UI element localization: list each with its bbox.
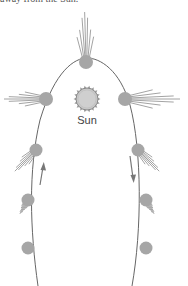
comet-nucleus-6 [22,194,35,207]
comet-nucleus-1 [79,55,93,69]
comet-nucleus-7 [140,194,153,207]
arrow-up-icon [40,162,46,185]
comet-tail [77,12,94,62]
comet-nucleus-4 [30,144,43,157]
comet-nucleus-5 [132,144,145,157]
comet-tail [125,90,180,108]
sun-icon [74,86,101,113]
comet-nucleus-2 [39,92,53,106]
arrow-down-icon [130,156,136,183]
sun-label: Sun [77,114,97,126]
comet-nucleus-8 [22,242,35,255]
comet-nucleus-3 [118,92,132,106]
comet-nucleus-9 [140,242,153,255]
comet-orbit-diagram: Sun [0,0,188,286]
